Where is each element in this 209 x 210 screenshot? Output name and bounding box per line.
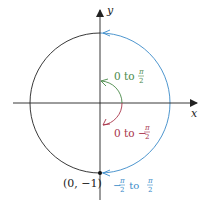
- svg-text:2: 2: [139, 77, 143, 85]
- svg-text:2: 2: [148, 186, 152, 194]
- red-arrowhead: [103, 119, 110, 125]
- point-label: (0, −1): [63, 177, 102, 190]
- svg-text:to: to: [126, 180, 142, 191]
- point-0-neg1: [98, 171, 102, 175]
- blue-range-label: − π 2 to π 2: [113, 177, 153, 194]
- svg-text:2: 2: [120, 186, 124, 194]
- svg-text:π: π: [147, 177, 153, 185]
- svg-text:π: π: [138, 68, 144, 76]
- green-range-label: 0 to π 2: [114, 68, 144, 85]
- svg-text:0 to −: 0 to −: [114, 127, 147, 139]
- red-arc: [103, 103, 122, 125]
- red-range-label: 0 to − π 2: [114, 124, 150, 141]
- svg-text:π: π: [144, 124, 150, 132]
- y-axis-label: y: [106, 4, 114, 17]
- svg-text:0 to: 0 to: [114, 70, 138, 82]
- unit-circle-diagram: y x (0, −1) 0 to π 2 0 to − π 2 − π 2 to…: [0, 0, 209, 210]
- svg-text:2: 2: [145, 133, 149, 141]
- svg-text:π: π: [119, 177, 125, 185]
- x-axis-label: x: [191, 107, 198, 120]
